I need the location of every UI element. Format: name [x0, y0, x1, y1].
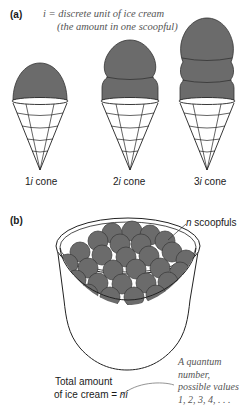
cone-2-illustration	[101, 40, 159, 170]
cone-1-illustration	[12, 63, 68, 170]
quantum-number-annotation: A quantum number, possible values 1, 2, …	[178, 356, 239, 406]
definition-line-1: i = discrete unit of ice cream	[43, 8, 164, 19]
panel-a-label: (a)	[10, 9, 22, 20]
bowl-illustration	[56, 218, 200, 370]
cone-3-label: 3i cone	[194, 176, 226, 187]
total-amount-line-1: Total amount	[55, 376, 112, 387]
quantum-leader-line	[122, 383, 174, 395]
scoopfuls-label: n scoopfuls	[186, 217, 237, 228]
definition-line-2: (the amount in one scoopful)	[57, 21, 178, 32]
cone-1-label: 1i cone	[25, 176, 57, 187]
cone-2-label: 2i cone	[113, 176, 145, 187]
total-amount-line-2: of ice cream = ni	[54, 389, 128, 400]
panel-b-label: (b)	[10, 215, 23, 226]
cone-3-illustration	[179, 18, 235, 170]
ice-cream-quantization-figure: (a) i = discrete unit of ice cream (the …	[0, 0, 248, 410]
